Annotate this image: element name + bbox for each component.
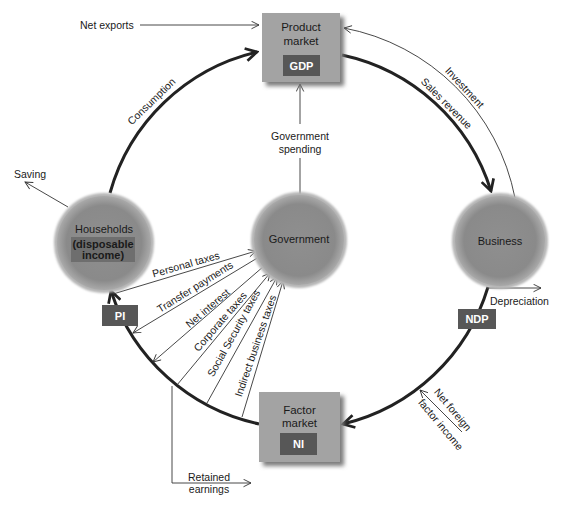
business-to-factor-flow	[343, 287, 488, 424]
retained-earnings-arrow	[172, 386, 251, 483]
pi-badge-label: PI	[115, 310, 125, 322]
government-spending-label-1: Government	[271, 130, 329, 142]
ndp-badge-label: NDP	[465, 313, 488, 325]
business-node: Business	[452, 193, 548, 289]
circular-flow-diagram: Product market GDP Factor market NI Hous…	[0, 0, 564, 509]
depreciation-label: Depreciation	[490, 295, 549, 307]
retained-earnings-label-2: earnings	[189, 483, 229, 495]
households-node: Households (disposable income)	[54, 193, 154, 293]
households-sub-2: income)	[82, 249, 125, 261]
retained-earnings-label-1: Retained	[188, 471, 230, 483]
product-market-title-2: market	[283, 35, 319, 47]
gdp-badge-label: GDP	[290, 60, 314, 72]
saving-arrow	[25, 182, 68, 207]
government-title: Government	[269, 233, 330, 245]
investment-flow	[344, 28, 515, 198]
households-title: Households	[75, 223, 134, 235]
net-exports-label: Net exports	[80, 19, 134, 31]
ni-badge-label: NI	[293, 438, 304, 450]
product-market-title-1: Product	[281, 21, 321, 33]
business-title: Business	[478, 235, 523, 247]
saving-label: Saving	[14, 168, 46, 180]
product-market-node: Product market GDP	[262, 13, 344, 86]
consumption-label: Consumption	[125, 75, 178, 127]
factor-market-title-2: market	[282, 417, 318, 429]
government-spending-label-2: spending	[279, 143, 322, 155]
factor-market-title-1: Factor	[283, 404, 316, 416]
government-node: Government	[251, 192, 347, 288]
factor-market-node: Factor market NI	[259, 392, 344, 466]
